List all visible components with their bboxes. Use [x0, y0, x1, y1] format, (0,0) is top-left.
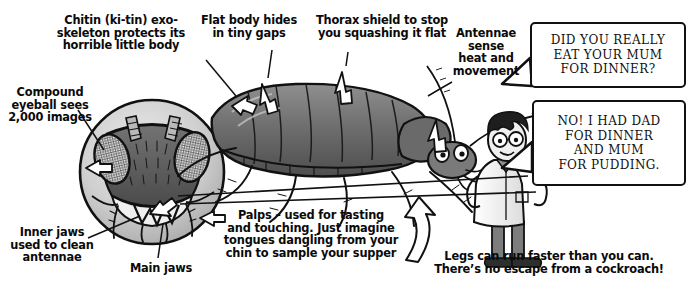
speech-bubble-cockroach-answer: NO! I HAD DAD FOR DINNER AND MUM FOR PUD… — [532, 100, 686, 186]
caption-flat-body: Flat body hides in tiny gaps — [190, 14, 308, 39]
caption-legs-speed: Legs can run faster than you can. There’… — [424, 250, 674, 275]
caption-palps: Palps – used for tasting and touching. J… — [216, 209, 406, 259]
caption-inner-jaws: Inner jaws used to clean antennae — [6, 226, 98, 264]
caption-main-jaws: Main jaws — [118, 262, 204, 275]
speech-bubble-scientist-question: DID YOU REALLY EAT YOUR MUM FOR DINNER? — [530, 22, 686, 88]
caption-antennae-sense: Antennae sense heat and movement — [450, 27, 522, 77]
caption-compound-eyeball: Compound eyeball sees 2,000 images — [4, 86, 96, 124]
cockroach-head-magnifier — [80, 100, 225, 244]
caption-thorax-shield: Thorax shield to stop you squashing it f… — [308, 14, 456, 39]
caption-chitin-exoskeleton: Chitin (ki-tin) exo- skeleton protects i… — [36, 14, 206, 52]
illustration-page: Chitin (ki-tin) exo- skeleton protects i… — [0, 0, 692, 295]
